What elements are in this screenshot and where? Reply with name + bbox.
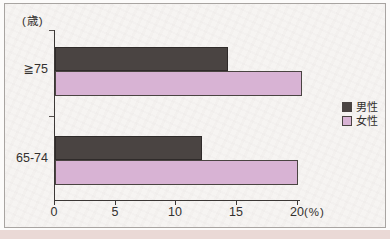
- x-axis-line: [54, 200, 300, 201]
- male-legend-swatch-icon: [342, 102, 352, 112]
- category-label-65-74: 65-74: [2, 151, 48, 165]
- x-tick-label-15: 15: [221, 205, 251, 220]
- category-label-75plus: ≧75: [2, 62, 48, 76]
- legend-item-male: 男性: [342, 101, 378, 113]
- x-tick-label-20: 20: [282, 205, 312, 220]
- legend-label-female: 女性: [356, 115, 378, 127]
- legend: 男性 女性: [342, 101, 378, 127]
- bar-75plus-female: [55, 71, 302, 96]
- bar-65-74-male: [55, 136, 202, 160]
- bar-65-74-female: [55, 160, 298, 185]
- page-bottom-strip: [0, 230, 390, 239]
- bar-75plus-male: [55, 47, 228, 71]
- legend-label-male: 男性: [356, 101, 378, 113]
- y-axis-tick: [49, 116, 54, 117]
- y-axis-unit-label: (歳): [22, 12, 44, 28]
- female-legend-swatch-icon: [342, 116, 352, 126]
- x-tick-label-10: 10: [160, 205, 190, 220]
- x-tick-label-5: 5: [100, 205, 130, 220]
- y-axis-tick: [49, 30, 54, 31]
- x-tick-label-0: 0: [39, 205, 69, 220]
- chart-frame: [4, 3, 386, 228]
- legend-item-female: 女性: [342, 115, 378, 127]
